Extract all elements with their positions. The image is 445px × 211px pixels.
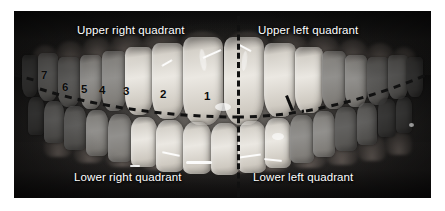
figure-root: Upper right quadrant Upper left quadrant… bbox=[0, 0, 445, 211]
tooth-number-6: 6 bbox=[62, 82, 68, 94]
tooth-number-4: 4 bbox=[99, 85, 105, 97]
vertical-midline bbox=[237, 16, 240, 197]
tooth-number-5: 5 bbox=[81, 84, 87, 96]
horizontal-occlusal-line bbox=[14, 11, 431, 198]
label-upper-left-quadrant: Upper left quadrant bbox=[258, 25, 358, 37]
tooth-number-3: 3 bbox=[123, 86, 129, 98]
tooth-number-7: 7 bbox=[41, 70, 47, 82]
tooth-number-1: 1 bbox=[204, 91, 210, 103]
intraoral-photograph bbox=[14, 11, 431, 198]
label-lower-right-quadrant: Lower right quadrant bbox=[74, 172, 181, 184]
tooth-number-2: 2 bbox=[160, 89, 166, 101]
label-upper-right-quadrant: Upper right quadrant bbox=[77, 25, 184, 37]
label-lower-left-quadrant: Lower left quadrant bbox=[253, 172, 353, 184]
